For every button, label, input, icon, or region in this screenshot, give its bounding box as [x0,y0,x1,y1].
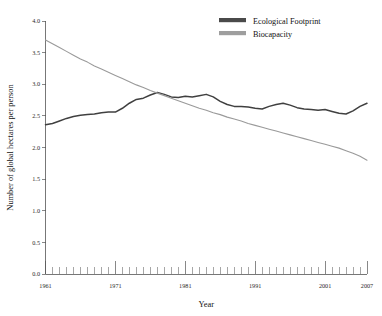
line-chart: 0.00.51.01.52.02.53.03.54.0 196119711981… [0,0,382,316]
chart-container: 0.00.51.01.52.02.53.03.54.0 196119711981… [0,0,382,316]
x-tick-label: 2007 [361,282,373,289]
y-tick-label: 3.0 [32,80,40,87]
plot-area: 0.00.51.01.52.02.53.03.54.0 196119711981… [32,17,373,289]
series-line-biocapacity [46,40,368,160]
x-tick-label: 1961 [39,282,51,289]
y-tick-label: 0.0 [32,270,40,277]
y-tick-label: 2.5 [32,112,40,119]
y-tick-label: 3.5 [32,49,40,56]
y-tick-label: 0.5 [32,239,40,246]
legend-label: Ecological Footprint [253,17,321,26]
chart-legend: Ecological FootprintBiocapacity [219,17,321,39]
series-line-ecological-footprint [46,92,368,124]
x-tick-label: 1991 [249,282,261,289]
x-tick-label: 1971 [109,282,121,289]
y-axis-ticks: 0.00.51.01.52.02.53.03.54.0 [32,17,45,277]
legend-label: Biocapacity [253,30,293,39]
x-tick-label: 1981 [179,282,191,289]
series-layer [46,40,368,160]
y-axis-title: Number of global hectares per person [6,84,15,211]
legend-swatch [219,31,246,35]
y-tick-label: 1.0 [32,207,40,214]
x-axis-title: Year [199,300,215,309]
y-tick-label: 1.5 [32,175,40,182]
y-tick-label: 4.0 [32,17,40,24]
x-axis-ticks: 196119711981199120012007 [39,261,373,289]
y-tick-label: 2.0 [32,144,40,151]
x-tick-label: 2001 [319,282,331,289]
legend-swatch [219,18,246,22]
